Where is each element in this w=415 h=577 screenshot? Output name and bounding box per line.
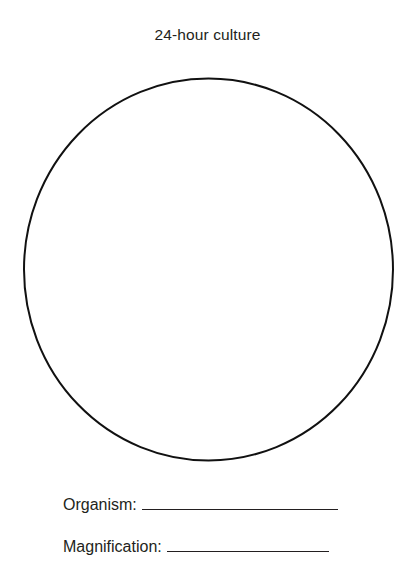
organism-label: Organism: xyxy=(63,496,137,514)
magnification-label: Magnification: xyxy=(63,538,162,556)
organism-blank-line[interactable] xyxy=(142,509,338,510)
magnification-field: Magnification: xyxy=(63,538,329,556)
organism-field: Organism: xyxy=(63,496,338,514)
magnification-blank-line[interactable] xyxy=(167,551,329,552)
field-of-view-circle xyxy=(0,0,415,577)
